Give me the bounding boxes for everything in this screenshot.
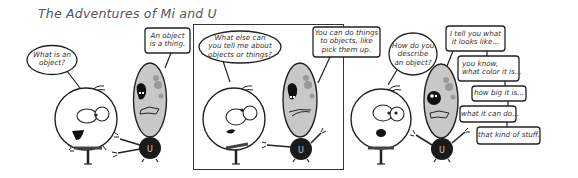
dialogue-line: it looks like...	[447, 38, 504, 46]
u-egg	[134, 63, 167, 137]
svg-text:U: U	[439, 146, 445, 155]
dialogue-mi-1: What is an object?	[31, 51, 73, 68]
mi-character-2	[203, 86, 265, 164]
dialogue-line: pick them up.	[314, 46, 379, 54]
dialogue-u-3e: that kind of stuff.	[478, 131, 539, 139]
dialogue-mi-2: What else can you tell me about objects …	[202, 34, 278, 59]
dialogue-u-2: You can do things to objects, like pick …	[314, 29, 379, 54]
dialogue-line: an object?	[392, 59, 434, 67]
dialogue-u-1: An object is a thing.	[146, 32, 189, 49]
svg-text:U: U	[147, 145, 153, 154]
dialogue-u-3a: I tell you what it looks like...	[447, 30, 504, 47]
mi-character-3	[351, 86, 411, 164]
svg-text:U: U	[298, 146, 304, 155]
dialogue-mi-3: How do you describe an object?	[392, 42, 434, 67]
dialogue-u-3b: you know, what color it is...	[459, 60, 521, 77]
u-character-2: U	[262, 63, 326, 162]
dialogue-line: objects or things?	[202, 51, 278, 59]
dialogue-line: object?	[31, 59, 73, 67]
mi-character-1	[55, 86, 117, 164]
dialogue-line: how big it is...	[473, 89, 525, 97]
dialogue-u-3d: what it can do...	[461, 110, 515, 118]
dialogue-line: what it can do...	[461, 110, 515, 118]
dialogue-u-3c: how big it is...	[473, 89, 525, 97]
dialogue-line: is a thing.	[146, 40, 189, 48]
u-character-1: U	[112, 63, 167, 162]
dialogue-line: that kind of stuff.	[478, 131, 539, 139]
dialogue-line: what color it is...	[462, 68, 521, 76]
